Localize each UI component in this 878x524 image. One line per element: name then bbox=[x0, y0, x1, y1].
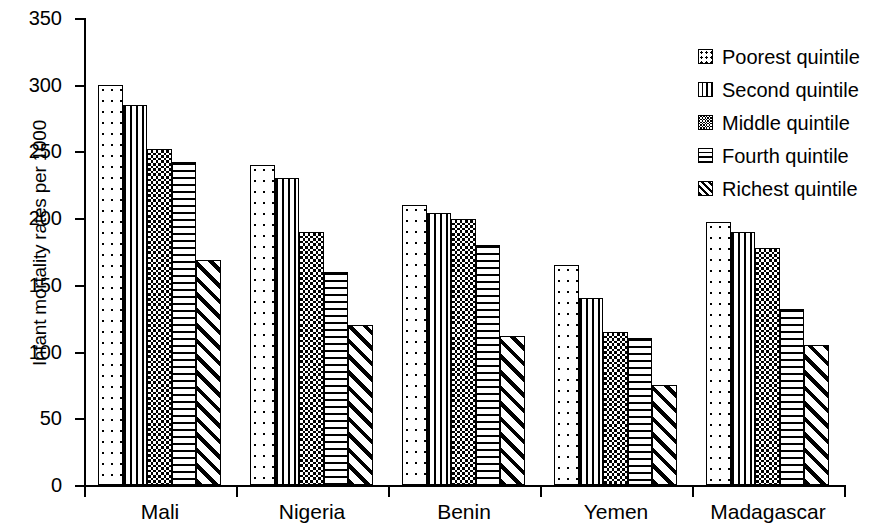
checkered-swatch-icon bbox=[698, 115, 713, 130]
legend-item-label: Fourth quintile bbox=[722, 146, 849, 166]
y-axis-tick-label: 250 bbox=[14, 141, 62, 161]
x-axis-category-label: Madagascar bbox=[692, 500, 844, 524]
y-axis-tick-mark bbox=[75, 85, 84, 87]
vertical-lines-swatch-icon bbox=[698, 82, 713, 97]
bar bbox=[147, 149, 172, 485]
legend-item-label: Second quintile bbox=[722, 80, 859, 100]
legend-item-label: Richest quintile bbox=[722, 179, 858, 199]
legend-item: Second quintile bbox=[698, 73, 878, 106]
bar-group bbox=[554, 18, 677, 485]
bar-group bbox=[250, 18, 373, 485]
bar bbox=[706, 222, 731, 485]
legend-item-label: Middle quintile bbox=[722, 113, 850, 133]
legend-item-label: Poorest quintile bbox=[722, 47, 860, 67]
y-axis-tick-label: 300 bbox=[14, 75, 62, 95]
x-axis-tick-mark bbox=[236, 485, 238, 497]
bar bbox=[500, 336, 525, 485]
y-axis-tick-mark bbox=[75, 18, 84, 20]
y-axis-tick-mark bbox=[75, 418, 84, 420]
x-axis-tick-mark bbox=[540, 485, 542, 497]
y-axis-tick-labels: 050100150200250300350 bbox=[14, 0, 62, 518]
bar bbox=[554, 265, 579, 485]
bar bbox=[804, 345, 829, 485]
y-axis-tick-mark bbox=[75, 485, 84, 487]
y-axis-tick-mark bbox=[75, 151, 84, 153]
diagonal-hatch-swatch-icon bbox=[698, 181, 713, 196]
y-axis-tick-label: 50 bbox=[14, 408, 62, 428]
x-axis-category-label: Benin bbox=[388, 500, 540, 524]
bar bbox=[628, 338, 653, 485]
bar bbox=[780, 309, 805, 485]
y-axis-tick-mark bbox=[75, 352, 84, 354]
x-axis-category-label: Nigeria bbox=[236, 500, 388, 524]
x-axis-tick-mark bbox=[84, 485, 86, 497]
x-axis-tick-mark bbox=[388, 485, 390, 497]
bar bbox=[476, 245, 501, 485]
y-axis-tick-label: 100 bbox=[14, 342, 62, 362]
x-axis-category-label: Mali bbox=[84, 500, 236, 524]
y-axis-tick-label: 150 bbox=[14, 275, 62, 295]
bar bbox=[196, 260, 221, 485]
bar bbox=[275, 178, 300, 485]
bar bbox=[250, 165, 275, 485]
legend-item: Fourth quintile bbox=[698, 139, 878, 172]
dots-swatch-icon bbox=[698, 49, 713, 64]
y-axis-line bbox=[84, 18, 86, 485]
legend-item: Poorest quintile bbox=[698, 40, 878, 73]
bar bbox=[98, 85, 123, 485]
bar-group bbox=[98, 18, 221, 485]
y-axis-tick-label: 350 bbox=[14, 8, 62, 28]
y-axis-tick-label: 200 bbox=[14, 208, 62, 228]
bar bbox=[172, 162, 197, 485]
bar bbox=[402, 205, 427, 485]
horizontal-lines-swatch-icon bbox=[698, 148, 713, 163]
bar bbox=[299, 232, 324, 486]
x-axis-line bbox=[84, 485, 844, 487]
bar bbox=[348, 325, 373, 485]
y-axis-tick-mark bbox=[75, 218, 84, 220]
bar bbox=[451, 219, 476, 485]
legend: Poorest quintileSecond quintileMiddle qu… bbox=[698, 40, 878, 205]
bar bbox=[603, 332, 628, 485]
x-axis-category-label: Yemen bbox=[540, 500, 692, 524]
bar bbox=[324, 272, 349, 485]
bar bbox=[755, 248, 780, 486]
bar bbox=[123, 105, 148, 485]
bar-group bbox=[402, 18, 525, 485]
x-axis-tick-mark bbox=[692, 485, 694, 497]
bar bbox=[427, 213, 452, 485]
legend-item: Richest quintile bbox=[698, 172, 878, 205]
x-axis-tick-mark bbox=[844, 485, 846, 497]
bar bbox=[652, 385, 677, 485]
bar bbox=[731, 232, 756, 486]
y-axis-tick-mark bbox=[75, 285, 84, 287]
y-axis-tick-label: 0 bbox=[14, 475, 62, 495]
legend-item: Middle quintile bbox=[698, 106, 878, 139]
bar bbox=[579, 298, 604, 485]
